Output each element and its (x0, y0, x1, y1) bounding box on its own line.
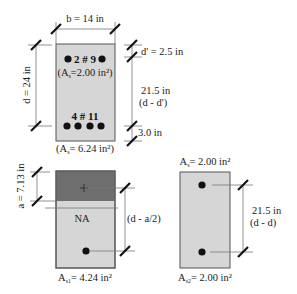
bottom-bars-label: 4 # 11 (72, 110, 99, 122)
mid-dim-value: 21.5 in (141, 85, 171, 96)
bottom-cover-label: 3.0 in (138, 127, 163, 138)
bottom-bar (86, 122, 93, 129)
compression-steel-area: As= 2.00 in² (180, 156, 231, 168)
neutral-axis-label: NA (74, 213, 90, 224)
bottom-bars-area: (As= 6.24 in²) (56, 143, 114, 155)
tension-bar (82, 247, 89, 254)
top-beam-section: b = 14 in d = 24 in d' = 2.5 in 21.5 in … (21, 13, 184, 155)
top-bars-area: (As=2.00 in²) (57, 67, 113, 79)
compression-bar (198, 181, 205, 188)
mid-dim-expr: (d - d') (139, 97, 168, 109)
tension-bar (198, 248, 205, 255)
lever-arm-label: (d - a/2) (127, 213, 161, 225)
cover-dimensions: d' = 2.5 in 21.5 in (d - d') 3.0 in (124, 40, 184, 146)
steel-couple-expr: (d - d) (250, 217, 277, 229)
top-bar (98, 55, 105, 62)
width-dimension: b = 14 in (51, 13, 120, 44)
steel-couple-section: As= 2.00 in² 21.5 in (d - d) As2= 2.00 i… (178, 156, 282, 284)
top-bar (64, 55, 71, 62)
compression-block (56, 171, 115, 201)
bottom-bar (97, 122, 104, 129)
top-cover-label: d' = 2.5 in (141, 46, 184, 57)
steel-couple-value: 21.5 in (252, 205, 282, 216)
bottom-bar (74, 122, 81, 129)
steel-area-s1: As1= 4.24 in² (58, 272, 112, 284)
depth-label: d = 24 in (21, 65, 32, 103)
a-label: a = 7.13 in (15, 163, 26, 209)
tension-steel-area-s2: As2= 2.00 in² (178, 272, 232, 284)
depth-dimension: d = 24 in (21, 40, 52, 131)
compression-block-section: NA a = 7.13 in (d - a/2) As1= 4.24 in² (15, 163, 161, 284)
a-dimension: a = 7.13 in (15, 163, 56, 209)
width-label: b = 14 in (66, 13, 104, 24)
bottom-bar (63, 122, 70, 129)
top-bars-label: 2 # 9 (74, 53, 97, 65)
beam-section-diagram: b = 14 in d = 24 in d' = 2.5 in 21.5 in … (0, 0, 297, 294)
